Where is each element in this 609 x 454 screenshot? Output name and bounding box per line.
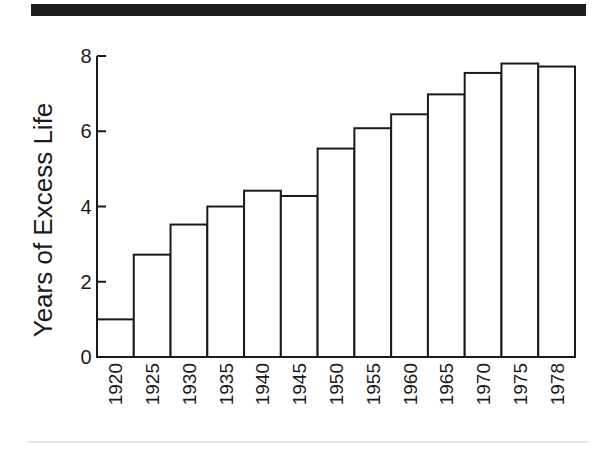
x-tick-label: 1970 [473, 363, 494, 405]
bar-1925 [134, 255, 171, 357]
bars-group [97, 64, 575, 357]
y-tick-label: 8 [80, 45, 91, 67]
x-tick-label: 1950 [326, 363, 347, 405]
bar-1965 [428, 94, 465, 357]
x-tick-label: 1978 [547, 363, 568, 405]
bar-1930 [171, 225, 208, 357]
bar-1970 [465, 73, 502, 357]
y-tick-label: 2 [80, 271, 91, 293]
x-tick-label: 1945 [289, 363, 310, 405]
bar-1955 [354, 128, 391, 357]
x-tick-label: 1930 [179, 363, 200, 405]
x-tick-label: 1955 [363, 363, 384, 405]
y-tick-label: 6 [80, 120, 91, 142]
y-axis-title-group: Years of Excess Life [28, 103, 58, 338]
bar-1950 [318, 149, 355, 357]
x-tick-label: 1920 [105, 363, 126, 405]
bar-1920 [97, 319, 134, 357]
bar-1935 [207, 207, 244, 358]
y-axis-title: Years of Excess Life [28, 103, 58, 338]
bar-1978 [538, 67, 575, 357]
bar-1945 [281, 196, 318, 357]
y-tick-label: 4 [80, 196, 91, 218]
bar-chart: Years of Excess Life 02468 1920192519301… [0, 0, 609, 454]
bar-1975 [501, 64, 538, 357]
x-tick-label: 1965 [436, 363, 457, 405]
y-tick-label: 0 [80, 346, 91, 368]
x-axis-labels: 1920192519301935194019451950195519601965… [105, 363, 567, 405]
x-tick-label: 1960 [400, 363, 421, 405]
x-tick-label: 1925 [142, 363, 163, 405]
bar-1960 [391, 114, 428, 357]
bottom-rule [28, 441, 588, 443]
x-tick-label: 1935 [216, 363, 237, 405]
x-tick-label: 1975 [510, 363, 531, 405]
bar-1940 [244, 191, 281, 357]
x-tick-label: 1940 [252, 363, 273, 405]
